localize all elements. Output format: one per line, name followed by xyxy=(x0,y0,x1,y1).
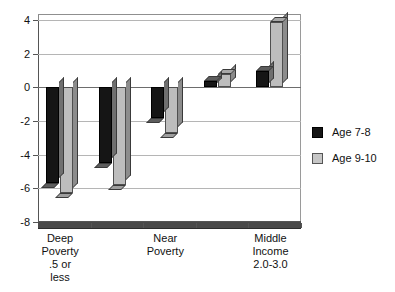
plot-frame-top-edge xyxy=(38,14,301,15)
bar-age-7-8-group-2 xyxy=(99,87,112,163)
bar-chart: 4 2 0 -2 -4 -6 -8 Deep Povert xyxy=(0,0,395,292)
y-tick-label-0: 0 xyxy=(24,82,30,93)
x-category-label-3: Near Poverty xyxy=(122,232,208,258)
y-tick-label-2: 2 xyxy=(24,48,30,59)
y-tick-label-minus8: -8 xyxy=(20,217,30,228)
bar-front-face xyxy=(256,71,269,88)
bar-side-face xyxy=(126,77,131,180)
bar-age-7-8-group-4 xyxy=(204,81,217,88)
legend-item-age-9-10: Age 9-10 xyxy=(312,152,377,164)
y-tick-label-4: 4 xyxy=(24,15,30,26)
bar-side-face xyxy=(59,77,64,178)
bar-front-face xyxy=(46,87,59,183)
gridline-2: 2 xyxy=(38,54,301,55)
plot-area: 4 2 0 -2 -4 -6 -8 xyxy=(38,20,301,222)
gridline-minus6: -6 xyxy=(38,188,301,189)
bar-age-7-8-group-3 xyxy=(151,87,164,117)
chart-legend: Age 7-8 Age 9-10 xyxy=(312,126,377,178)
x-tick-mark xyxy=(196,223,197,228)
x-tick-mark xyxy=(91,223,92,228)
bar-front-face xyxy=(204,81,217,88)
legend-label-age-9-10: Age 9-10 xyxy=(332,153,377,164)
bar-side-face xyxy=(73,77,78,188)
bar-side-face xyxy=(283,12,288,83)
y-tick-label-minus2: -2 xyxy=(20,116,30,127)
legend-label-age-7-8: Age 7-8 xyxy=(332,127,371,138)
bar-side-face xyxy=(112,77,117,158)
dark-square-swatch-icon xyxy=(312,127,323,138)
y-tick-label-minus6: -6 xyxy=(20,183,30,194)
bar-side-face xyxy=(164,77,169,112)
bar-age-7-8-group-1 xyxy=(46,87,59,183)
legend-item-age-7-8: Age 7-8 xyxy=(312,126,377,138)
x-category-label-1: Deep Poverty .5 or less xyxy=(17,232,103,284)
bar-side-face xyxy=(178,77,183,127)
light-square-swatch-icon xyxy=(312,153,323,164)
y-tick-label-minus4: -4 xyxy=(20,149,30,160)
bar-front-face xyxy=(151,87,164,117)
x-category-label-5: Middle Income 2.0-3.0 xyxy=(227,232,313,271)
gridline-4: 4 xyxy=(38,20,301,21)
x-tick-mark xyxy=(143,223,144,228)
bar-front-face xyxy=(99,87,112,163)
plot-floor-edge xyxy=(38,228,301,229)
x-tick-mark xyxy=(248,223,249,228)
bar-age-7-8-group-5 xyxy=(256,71,269,88)
x-tick-mark xyxy=(301,223,302,228)
